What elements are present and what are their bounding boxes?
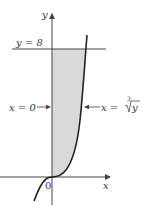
label-x-equals-0: x = 0 bbox=[9, 102, 36, 113]
origin-label: 0 bbox=[45, 180, 51, 191]
radicand-y: y bbox=[131, 102, 138, 113]
label-y-equals-8: y = 8 bbox=[15, 37, 43, 48]
region-diagram: y x 0 y = 8 x = 0 x = 3 y bbox=[0, 0, 157, 211]
x-axis-label: x bbox=[103, 180, 109, 191]
cube-root-index: 3 bbox=[127, 95, 131, 102]
y-axis-label: y bbox=[41, 9, 48, 20]
label-x-equals-cbrt-y-prefix: x = bbox=[101, 102, 118, 113]
